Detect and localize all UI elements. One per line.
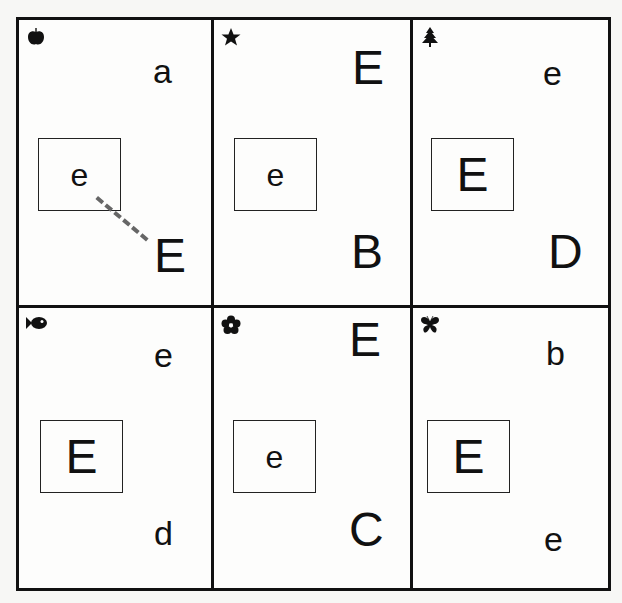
apple-icon <box>26 27 46 47</box>
cell-butterfly: b E e <box>413 308 608 591</box>
letter-option[interactable]: e <box>544 522 563 556</box>
cell-tree: e E D <box>413 20 608 305</box>
star-icon <box>221 27 241 47</box>
target-letter: E <box>456 151 488 199</box>
target-letter: e <box>267 159 285 191</box>
cell-apple: a e E <box>19 20 211 305</box>
letter-option[interactable]: e <box>543 56 562 90</box>
target-letter-box: E <box>431 138 514 211</box>
target-letter: e <box>71 159 89 191</box>
letter-option[interactable]: B <box>351 228 383 276</box>
letter-option[interactable]: C <box>349 506 384 554</box>
letter-option[interactable]: E <box>154 232 186 280</box>
butterfly-icon <box>420 315 440 335</box>
letter-option[interactable]: D <box>548 228 583 276</box>
tree-icon <box>420 27 440 47</box>
target-letter-box: e <box>233 420 316 493</box>
flower-icon <box>221 315 241 335</box>
letter-option[interactable]: b <box>546 336 565 370</box>
letter-option[interactable]: d <box>154 516 173 550</box>
cell-fish: e E d <box>19 308 211 591</box>
fish-icon <box>26 316 48 330</box>
letter-option[interactable]: E <box>352 44 384 92</box>
target-letter-box: e <box>38 138 121 211</box>
letter-option[interactable]: a <box>153 54 172 88</box>
target-letter-box: E <box>40 420 123 493</box>
cell-star: E e B <box>214 20 410 305</box>
cell-flower: E e C <box>214 308 410 591</box>
target-letter-box: e <box>234 138 317 211</box>
worksheet-grid: a e E E e B e E D e E <box>16 17 611 591</box>
letter-option[interactable]: e <box>154 338 173 372</box>
target-letter-box: E <box>427 420 510 493</box>
target-letter: E <box>65 433 97 481</box>
target-letter: e <box>266 441 284 473</box>
target-letter: E <box>452 433 484 481</box>
letter-option[interactable]: E <box>349 316 381 364</box>
match-connector-line <box>95 196 148 241</box>
